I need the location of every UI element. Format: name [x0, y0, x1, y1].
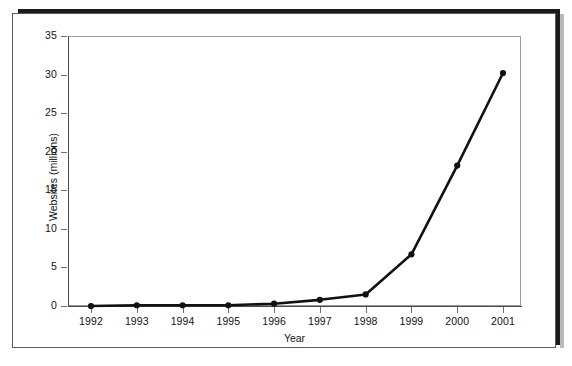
y-axis-tick-label: 30	[13, 68, 57, 80]
x-axis-title: Year	[68, 332, 521, 344]
line-chart: 05101520253035 1992199319941995199619971…	[13, 14, 557, 349]
data-point-marker	[271, 301, 277, 307]
data-series-layer	[68, 36, 521, 307]
data-point-marker	[179, 302, 185, 308]
y-axis-tick-label: 5	[13, 260, 57, 272]
y-axis-tick	[61, 113, 67, 114]
x-axis-tick	[503, 307, 504, 313]
x-axis-tick-label: 2001	[491, 315, 515, 327]
x-axis-tick	[274, 307, 275, 313]
y-axis-tick	[61, 152, 67, 153]
x-axis-tick-label: 1996	[262, 315, 286, 327]
data-point-marker	[317, 297, 323, 303]
data-point-marker	[363, 291, 369, 297]
y-axis-tick	[61, 190, 67, 191]
scanned-page: 05101520253035 1992199319941995199619971…	[0, 0, 572, 366]
x-axis-tick-label: 1994	[171, 315, 195, 327]
y-axis-tick-label: 35	[13, 29, 57, 41]
data-point-marker	[225, 302, 231, 308]
data-point-marker	[454, 163, 460, 169]
y-axis-tick	[61, 267, 67, 268]
series-line	[91, 73, 503, 306]
x-axis-tick-label: 1998	[354, 315, 378, 327]
x-axis-tick-label: 1993	[125, 315, 149, 327]
y-axis-tick	[61, 75, 67, 76]
x-axis-tick-label: 1992	[79, 315, 103, 327]
x-axis-tick-label: 1995	[216, 315, 240, 327]
x-axis-tick-label: 1999	[400, 315, 424, 327]
scan-shadow-right-soft-edge	[560, 14, 564, 348]
y-axis-title: Websites (millions)	[47, 97, 59, 257]
x-axis-tick	[320, 307, 321, 313]
x-axis-tick	[411, 307, 412, 313]
y-axis-tick	[61, 306, 67, 307]
data-point-marker	[134, 302, 140, 308]
x-axis-tick	[457, 307, 458, 313]
data-point-marker	[408, 251, 414, 257]
y-axis-tick	[61, 36, 67, 37]
figure-frame: 05101520253035 1992199319941995199619971…	[12, 13, 556, 348]
y-axis-tick-label: 0	[13, 299, 57, 311]
y-axis-tick	[61, 229, 67, 230]
x-axis-tick	[366, 307, 367, 313]
data-point-marker	[88, 303, 94, 309]
x-axis-tick-label: 1997	[308, 315, 332, 327]
x-axis-tick-label: 2000	[445, 315, 469, 327]
data-point-marker	[500, 70, 506, 76]
